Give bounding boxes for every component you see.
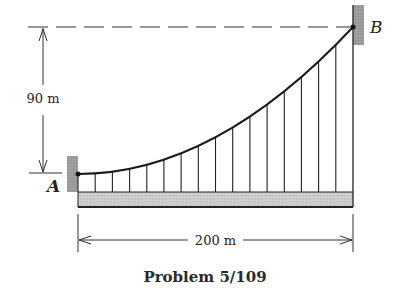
deck — [78, 192, 353, 207]
horizontal-dimension-label: 200 m — [195, 233, 236, 248]
support-wall-b — [353, 5, 364, 45]
vertical-dimension-label: 90 m — [26, 91, 59, 106]
point-b-marker — [351, 25, 356, 30]
vertical-dimension: 90 m — [26, 28, 62, 173]
point-a-marker — [76, 172, 81, 177]
problem-title: Problem 5/109 — [143, 268, 266, 286]
hangers — [78, 45, 336, 192]
point-a-label: A — [45, 176, 60, 196]
suspension-cable-diagram: 90 m A B — [0, 0, 400, 307]
point-b-label: B — [369, 17, 383, 37]
horizontal-dimension: 200 m — [78, 214, 353, 252]
